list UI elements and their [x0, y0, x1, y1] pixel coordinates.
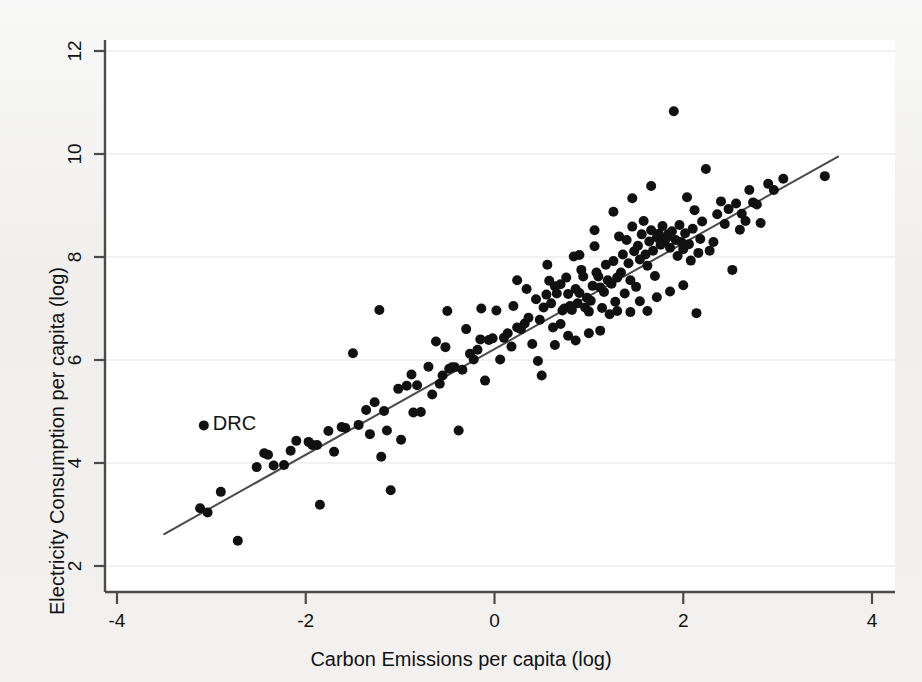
scatter-point [374, 305, 384, 315]
scatter-point [480, 376, 490, 386]
scatter-point [674, 220, 684, 230]
scatter-point [522, 284, 532, 294]
scatter-point [741, 216, 751, 226]
scatter-point [495, 354, 505, 364]
scatter-point [382, 426, 392, 436]
scatter-point [340, 423, 350, 433]
scatter-point [457, 365, 467, 375]
scatter-point [329, 447, 339, 457]
scatter-point [476, 304, 486, 314]
x-tick-label-0: 0 [489, 610, 500, 632]
scatter-point [203, 507, 213, 517]
x-tick-label--4: -4 [109, 610, 126, 632]
scatter-point [712, 209, 722, 219]
scatter-point [637, 229, 647, 239]
scatter-point [627, 193, 637, 203]
scatter-point [720, 219, 730, 229]
scatter-point [386, 485, 396, 495]
scatter-point [393, 384, 403, 394]
scatter-point [427, 390, 437, 400]
scatter-point [708, 237, 718, 247]
scatter-point [348, 348, 358, 358]
scatter-point [716, 196, 726, 206]
scatter-point [665, 287, 675, 297]
scatter-point [379, 406, 389, 416]
scatter-point [650, 271, 660, 281]
scatter-point [678, 280, 688, 290]
scatter-point [323, 426, 333, 436]
plot-canvas [0, 0, 922, 682]
scatter-point [590, 241, 600, 251]
scatter-point [691, 308, 701, 318]
scatter-point [624, 258, 634, 268]
scatter-point [370, 397, 380, 407]
scatter-point [561, 273, 571, 283]
scatter-point [688, 224, 698, 234]
scatter-point [469, 354, 479, 364]
scatter-point [635, 296, 645, 306]
scatter-point [686, 256, 696, 266]
scatter-point [473, 345, 483, 355]
scatter-point [584, 307, 594, 317]
x-tick-label--2: -2 [297, 610, 314, 632]
scatter-point [657, 221, 667, 231]
scatter-point [684, 239, 694, 249]
scatter-point [744, 185, 754, 195]
scatter-point [475, 334, 485, 344]
scatter-point [312, 440, 322, 450]
scatter-point [491, 306, 501, 316]
x-tick-label-2: 2 [678, 610, 689, 632]
scatter-point [546, 298, 556, 308]
scatter-point [642, 261, 652, 271]
scatter-point [527, 339, 537, 349]
scatter-point [610, 297, 620, 307]
scatter-point [608, 256, 618, 266]
scatter-point [616, 267, 626, 277]
scatter-point [646, 181, 656, 191]
scatter-point [233, 536, 243, 546]
scatter-point [376, 452, 386, 462]
scatter-point [574, 250, 584, 260]
scatter-point [412, 380, 422, 390]
scatter-point [727, 265, 737, 275]
scatter-point [631, 282, 641, 292]
scatter-point [769, 185, 779, 195]
scatter-point [286, 446, 296, 456]
annotation-marker [199, 420, 209, 430]
scatter-point [697, 216, 707, 226]
scatter-point [396, 435, 406, 445]
scatter-point [633, 241, 643, 251]
y-tick-label-8: 8 [64, 252, 86, 263]
scatter-point [690, 205, 700, 215]
scatter-point [620, 289, 630, 299]
scatter-point [216, 487, 226, 497]
scatter-point [291, 436, 301, 446]
scatter-point [535, 315, 545, 325]
y-axis-title: Electricity Consumption per capita (log) [46, 267, 69, 615]
scatter-point [639, 216, 649, 226]
scatter-point [263, 450, 273, 460]
scatter-point [488, 333, 498, 343]
scatter-point [735, 225, 745, 235]
scatter-point [408, 408, 418, 418]
y-tick-label-10: 10 [64, 143, 86, 164]
plot-area-background [105, 40, 895, 592]
scatter-point [454, 426, 464, 436]
scatter-point [269, 461, 279, 471]
scatter-point [622, 235, 632, 245]
scatter-point [537, 370, 547, 380]
scatter-point [252, 462, 262, 472]
scatter-point [506, 342, 516, 352]
scatter-point [608, 207, 618, 217]
scatter-point [586, 296, 596, 306]
scatter-point [756, 218, 766, 228]
scatter-point [731, 198, 741, 208]
scatter-point [552, 289, 562, 299]
scatter-point [682, 192, 692, 202]
scatter-point [618, 249, 628, 259]
scatter-point [593, 272, 603, 282]
scatter-point [361, 405, 371, 415]
y-tick-label-12: 12 [64, 40, 86, 61]
scatter-point [365, 429, 375, 439]
scatter-point [442, 306, 452, 316]
